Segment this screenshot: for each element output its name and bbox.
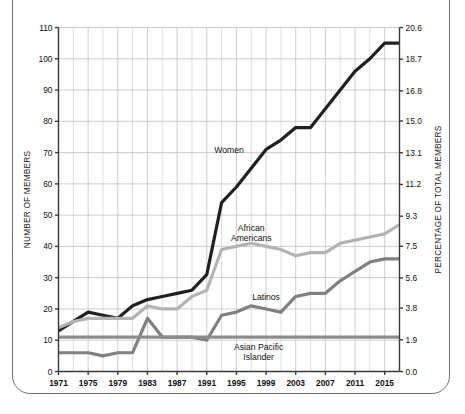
x-tick-label: 2015 <box>375 378 394 388</box>
y-tick-label-right: 15.0 <box>406 116 423 126</box>
y-tick-label-left: 20 <box>43 304 53 314</box>
series-label-african-americans: African <box>238 223 265 233</box>
x-tick-label: 1995 <box>227 378 246 388</box>
y-tick-label-left: 10 <box>43 335 53 345</box>
y-tick-label-left: 0 <box>48 367 53 377</box>
series-line-latinos <box>59 259 400 356</box>
y-tick-label-right: 1.9 <box>406 335 418 345</box>
x-tick-label: 1983 <box>138 378 157 388</box>
y-tick-label-right: 11.2 <box>406 179 422 189</box>
series-line-women <box>59 43 400 331</box>
y-tick-label-right: 3.8 <box>406 303 418 313</box>
line-chart: 01020304050607080901001100.01.93.85.67.5… <box>0 0 465 414</box>
series-label-women: Women <box>214 145 244 155</box>
series-label-asian-pacific-islander: Asian Pacific <box>234 342 284 352</box>
series-label-latinos: Latinos <box>252 292 280 302</box>
x-tick-label: 2003 <box>286 378 305 388</box>
y-tick-label-left: 30 <box>43 273 53 283</box>
y-axis-title-left: NUMBER OF MEMBERS <box>22 151 32 249</box>
y-tick-label-right: 13.1 <box>406 148 423 158</box>
x-tick-label: 1979 <box>108 378 127 388</box>
series-label-african-americans: Americans <box>231 233 272 243</box>
y-tick-label-right: 16.8 <box>406 86 423 96</box>
y-tick-label-left: 110 <box>39 23 53 33</box>
x-tick-label: 1999 <box>257 378 276 388</box>
x-tick-label: 1971 <box>49 378 68 388</box>
x-tick-label: 1975 <box>79 378 98 388</box>
y-tick-label-right: 9.3 <box>406 211 418 221</box>
y-tick-label-left: 90 <box>43 85 53 95</box>
y-tick-label-right: 18.7 <box>406 54 423 64</box>
x-tick-label: 2011 <box>346 378 365 388</box>
series-label-asian-pacific-islander: Islander <box>243 352 274 362</box>
x-tick-label: 1987 <box>168 378 187 388</box>
y-tick-label-left: 60 <box>43 179 53 189</box>
y-tick-label-left: 50 <box>43 210 53 220</box>
x-tick-label: 1991 <box>197 378 216 388</box>
y-tick-label-left: 40 <box>43 241 53 251</box>
chart-page: 01020304050607080901001100.01.93.85.67.5… <box>0 0 465 414</box>
y-tick-label-right: 7.5 <box>406 241 418 251</box>
y-axis-title-right: PERCENTAGE OF TOTAL MEMBERS <box>433 125 443 273</box>
y-tick-label-left: 100 <box>39 54 53 64</box>
y-tick-label-left: 70 <box>43 148 53 158</box>
y-tick-label-right: 5.6 <box>406 273 418 283</box>
y-tick-label-left: 80 <box>43 116 53 126</box>
x-tick-label: 2007 <box>316 378 335 388</box>
y-tick-label-right: 0.0 <box>406 367 418 377</box>
y-tick-label-right: 20.6 <box>406 23 423 33</box>
